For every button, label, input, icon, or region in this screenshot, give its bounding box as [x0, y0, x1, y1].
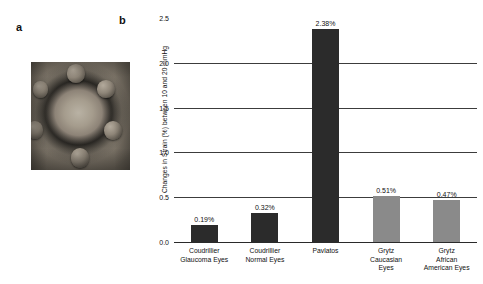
x-axis-line [174, 242, 477, 243]
bar-value-label: 0.47% [437, 191, 457, 198]
bar-group: 0.47%GrytzAfricanAmerican Eyes [416, 18, 477, 242]
y-axis-tick-label: 1.5 [159, 104, 169, 111]
x-axis-category-label: GrytzAfricanAmerican Eyes [410, 247, 483, 273]
panel-b-letter: b [119, 15, 126, 26]
y-axis-tick-label: 2.0 [159, 59, 169, 66]
bar-group: 0.51%GrytzCaucasianEyes [356, 18, 417, 242]
bar[interactable]: 0.19% [191, 225, 218, 242]
bar-value-label: 2.38% [316, 20, 336, 27]
plot-area: 0.00.51.01.52.02.50.19%CoudrillierGlauco… [174, 18, 477, 242]
bar-group: 0.32%CoudrillierNormal Eyes [235, 18, 296, 242]
bar-group: 0.19%CoudrillierGlaucoma Eyes [174, 18, 235, 242]
panel-a-letter: a [16, 22, 22, 33]
y-axis-tick-label: 0.0 [159, 239, 169, 246]
bar-value-label: 0.19% [194, 216, 214, 223]
bar[interactable]: 0.51% [373, 196, 400, 242]
photo-vignette [31, 62, 130, 170]
bar[interactable]: 0.32% [251, 213, 278, 242]
bar-value-label: 0.51% [376, 187, 396, 194]
bar[interactable]: 2.38% [312, 29, 339, 242]
bar-chart: Changes in Strain (%) between 10 and 20 … [136, 8, 483, 284]
y-axis-tick-label: 1.0 [159, 149, 169, 156]
experimental-setup-photo [31, 62, 130, 170]
bar-value-label: 0.32% [255, 204, 275, 211]
bar[interactable]: 0.47% [433, 200, 460, 242]
bar-group: 2.38%Pavlatos [295, 18, 356, 242]
y-axis-tick-label: 0.5 [159, 194, 169, 201]
figure-container: a b Changes in Strain (%) between 10 and… [0, 0, 483, 284]
y-axis-tick-label: 2.5 [159, 15, 169, 22]
